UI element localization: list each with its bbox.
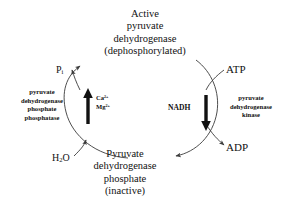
phosphate-subscript: i [62,68,64,75]
enzyme-phosphatase-line1: pyruvate [4,88,80,97]
label-water: H2O [52,152,70,164]
label-divalent-cations: Ca2+ Mg2+ [96,94,110,112]
phosphatase-activation-arrow [83,88,93,124]
node-inactive-line3: phosphate [60,173,190,185]
node-active-pyruvate-dehydrogenase: Active pyruvate dehydrogenase (dephospho… [0,8,290,58]
label-calcium: Ca2+ [96,94,110,103]
node-active-line1: Active [0,8,290,20]
node-inactive-line1: Pyruvate [60,148,190,160]
calcium-symbol: Ca [96,94,104,101]
enzyme-kinase-line2: dehydrogenase [214,103,288,112]
calcium-charge: 2+ [104,94,108,99]
magnesium-charge: 2+ [106,103,110,108]
water-tail: O [63,152,70,163]
label-magnesium: Mg2+ [96,103,110,112]
node-active-line4: (dephosphorylated) [0,45,290,57]
label-atp: ATP [226,63,246,76]
magnesium-symbol: Mg [96,103,106,110]
label-inorganic-phosphate: Pi [56,64,63,76]
enzyme-label-phosphatase: pyruvate dehydrogenase phosphate phospha… [4,88,80,122]
node-active-line3: dehydrogenase [0,33,290,45]
node-inactive-line4: (inactive) [60,185,190,197]
enzyme-kinase-line3: kinase [214,111,288,120]
enzyme-phosphatase-line3: phosphate [4,105,80,114]
enzyme-label-kinase: pyruvate dehydrogenase kinase [214,94,288,120]
enzyme-phosphatase-line2: dehydrogenase [4,97,80,106]
enzyme-phosphatase-line4: phosphatase [4,114,80,123]
node-inactive-line2: dehydrogenase [60,160,190,172]
node-inactive-pyruvate-dehydrogenase-phosphate: Pyruvate dehydrogenase phosphate (inacti… [60,148,190,198]
enzyme-kinase-line1: pyruvate [214,94,288,103]
label-nadh: NADH [168,104,190,113]
node-active-line2: pyruvate [0,20,290,32]
label-adp: ADP [226,141,248,154]
kinase-regulation-arrow [201,95,211,131]
phosphate-output-arrow [72,70,80,90]
